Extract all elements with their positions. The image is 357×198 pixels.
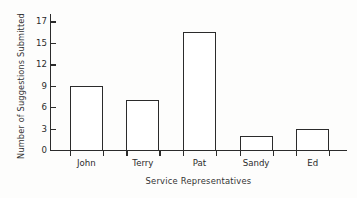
y-tick-label: 9 xyxy=(42,81,47,91)
x-tick-label-terry: Terry xyxy=(132,158,153,168)
x-tick-mark xyxy=(183,150,184,156)
bar-terry xyxy=(126,100,159,150)
y-axis-title: Number of Suggestions Submitted xyxy=(14,6,28,166)
y-tick-mark xyxy=(50,64,56,65)
y-tick-mark xyxy=(50,43,56,44)
x-tick-mark xyxy=(126,150,127,156)
y-tick-label: 15 xyxy=(36,38,47,48)
x-tick-mark xyxy=(273,150,274,156)
x-tick-mark xyxy=(240,150,241,156)
x-tick-mark xyxy=(329,150,330,156)
x-tick-label-john: John xyxy=(77,158,96,168)
y-tick-mark xyxy=(50,107,56,108)
bar-john xyxy=(70,86,103,150)
x-axis-line xyxy=(50,150,347,151)
bar-pat xyxy=(183,32,216,150)
y-tick-label: 17 xyxy=(36,16,47,26)
bar-sandy xyxy=(240,136,273,150)
y-tick-mark xyxy=(50,21,56,22)
x-tick-label-sandy: Sandy xyxy=(243,158,270,168)
bar-ed xyxy=(296,129,329,150)
x-tick-mark xyxy=(159,150,160,156)
y-tick-mark xyxy=(50,129,56,130)
y-tick-label: 6 xyxy=(42,102,47,112)
y-tick-mark xyxy=(50,86,56,87)
y-axis-line xyxy=(50,14,51,151)
x-tick-mark xyxy=(70,150,71,156)
x-tick-label-pat: Pat xyxy=(193,158,206,168)
y-tick-label: 0 xyxy=(42,145,47,155)
plot-area: 0369121517 JohnTerryPatSandyEd xyxy=(50,14,347,151)
x-axis-title: Service Representatives xyxy=(50,176,347,186)
y-tick-mark xyxy=(50,150,56,151)
x-tick-mark xyxy=(216,150,217,156)
y-tick-label: 3 xyxy=(42,124,47,134)
x-tick-mark xyxy=(296,150,297,156)
y-tick-label: 12 xyxy=(36,59,47,69)
x-tick-label-ed: Ed xyxy=(307,158,318,168)
bar-chart-figure: Number of Suggestions Submitted 03691215… xyxy=(0,0,357,198)
x-tick-mark xyxy=(103,150,104,156)
